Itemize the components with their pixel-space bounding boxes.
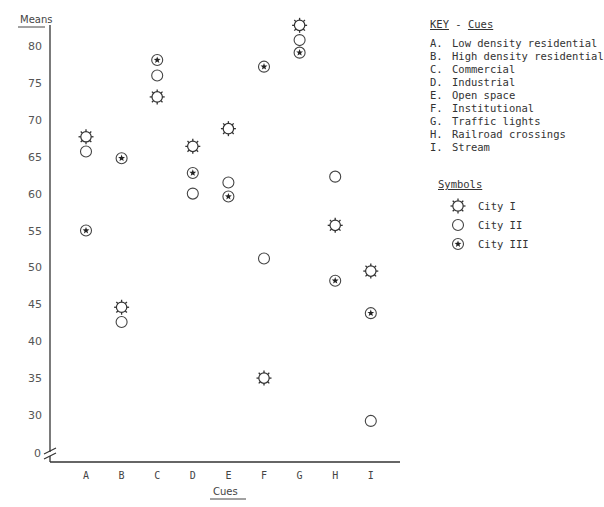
y-tick-label: 40 bbox=[28, 335, 42, 348]
y-tick-label: 45 bbox=[28, 298, 42, 311]
key-item-letter: E. bbox=[430, 89, 452, 102]
star-circle-icon bbox=[450, 236, 466, 252]
data-point-star-circle bbox=[330, 275, 341, 286]
y-tick-label: 70 bbox=[28, 114, 42, 127]
series-city-iii bbox=[81, 47, 377, 319]
symbols-list: City ICity IICity III bbox=[438, 196, 529, 253]
y-tick-label: 65 bbox=[28, 151, 42, 164]
key-item: F.Institutional bbox=[430, 102, 604, 115]
key-item-label: Industrial bbox=[452, 76, 515, 89]
y-tick-label: 35 bbox=[28, 372, 42, 385]
key-item-label: Commercial bbox=[452, 63, 515, 76]
key-item-letter: F. bbox=[430, 102, 452, 115]
data-point-star-circle bbox=[223, 191, 234, 202]
key-item-label: High density residential bbox=[452, 50, 604, 63]
data-point-circle bbox=[116, 317, 127, 328]
data-point-star-circle bbox=[81, 225, 92, 236]
circle-icon bbox=[450, 217, 466, 233]
data-point-sun bbox=[185, 139, 200, 154]
x-tick-label: F bbox=[261, 470, 267, 481]
key-item-label: Open space bbox=[452, 89, 515, 102]
x-tick-label: G bbox=[297, 470, 303, 481]
key-list: A.Low density residentialB.High density … bbox=[430, 37, 604, 154]
x-tick-label: C bbox=[154, 470, 160, 481]
key-item: A.Low density residential bbox=[430, 37, 604, 50]
key-title: KEY - Cues bbox=[430, 18, 604, 31]
x-tick-label: I bbox=[368, 470, 374, 481]
y-axis-label: Means bbox=[20, 14, 52, 25]
cue-key: KEY - Cues A.Low density residentialB.Hi… bbox=[430, 18, 604, 154]
y-tick-label: 30 bbox=[28, 409, 42, 422]
y-tick-label: 80 bbox=[28, 40, 42, 53]
symbol-label: City III bbox=[478, 238, 529, 250]
symbols-title: Symbols bbox=[438, 178, 529, 190]
data-point-star-circle bbox=[116, 153, 127, 164]
key-item-letter: A. bbox=[430, 37, 452, 50]
x-tick-label: D bbox=[190, 470, 196, 481]
key-item-label: Low density residential bbox=[452, 37, 597, 50]
x-tick-label: A bbox=[83, 470, 89, 481]
y-tick-label: 60 bbox=[28, 188, 42, 201]
sun-icon bbox=[450, 198, 466, 214]
y-tick-label: 50 bbox=[28, 261, 42, 274]
key-item-letter: D. bbox=[430, 76, 452, 89]
key-item-letter: G. bbox=[430, 115, 452, 128]
data-point-star-circle bbox=[187, 167, 198, 178]
key-item-letter: B. bbox=[430, 50, 452, 63]
symbol-item: City I bbox=[438, 196, 529, 215]
data-point-sun bbox=[328, 218, 343, 233]
data-point-sun bbox=[114, 300, 129, 315]
x-tick-label: H bbox=[332, 470, 338, 481]
data-point-circle bbox=[259, 253, 270, 264]
data-point-sun bbox=[79, 129, 94, 144]
y-tick-label: 75 bbox=[28, 77, 42, 90]
symbol-item: City II bbox=[438, 215, 529, 234]
key-item: D.Industrial bbox=[430, 76, 604, 89]
key-item: E.Open space bbox=[430, 89, 604, 102]
x-tick-label: B bbox=[119, 470, 125, 481]
x-axis-label: Cues bbox=[213, 486, 238, 497]
x-ticks: ABCDEFGHI bbox=[83, 470, 374, 481]
symbol-label: City I bbox=[478, 200, 516, 212]
data-point-star-circle bbox=[365, 308, 376, 319]
data-point-circle bbox=[81, 146, 92, 157]
key-item: G.Traffic lights bbox=[430, 115, 604, 128]
key-item: I.Stream bbox=[430, 141, 604, 154]
symbol-item: City III bbox=[438, 234, 529, 253]
data-point-sun bbox=[363, 264, 378, 279]
x-tick-label: E bbox=[225, 470, 231, 481]
data-point-circle bbox=[365, 415, 376, 426]
key-item-letter: C. bbox=[430, 63, 452, 76]
key-item: C.Commercial bbox=[430, 63, 604, 76]
y-tick-label: 55 bbox=[28, 225, 42, 238]
data-point-star-circle bbox=[259, 61, 270, 72]
key-item-letter: I. bbox=[430, 141, 452, 154]
data-point-sun bbox=[257, 371, 272, 386]
data-point-sun bbox=[150, 89, 165, 104]
key-item-label: Traffic lights bbox=[452, 115, 541, 128]
data-point-star-circle bbox=[294, 47, 305, 58]
key-item-label: Railroad crossings bbox=[452, 128, 566, 141]
symbols-legend: Symbols City ICity IICity III bbox=[438, 178, 529, 253]
axes bbox=[44, 25, 400, 462]
data-point-star-circle bbox=[152, 55, 163, 66]
y-ticks: 80757065605550454035300 bbox=[28, 40, 42, 460]
key-item-label: Stream bbox=[452, 141, 490, 154]
data-point-circle bbox=[152, 70, 163, 81]
data-point-sun bbox=[292, 18, 307, 33]
series-city-ii bbox=[81, 35, 377, 427]
data-point-circle bbox=[187, 188, 198, 199]
data-point-circle bbox=[294, 35, 305, 46]
data-point-circle bbox=[223, 177, 234, 188]
key-item: B.High density residential bbox=[430, 50, 604, 63]
symbol-label: City II bbox=[478, 219, 522, 231]
data-points bbox=[79, 18, 379, 427]
key-item-label: Institutional bbox=[452, 102, 534, 115]
data-point-sun bbox=[221, 121, 236, 136]
key-item-letter: H. bbox=[430, 128, 452, 141]
data-point-circle bbox=[330, 171, 341, 182]
y-tick-label-zero: 0 bbox=[34, 447, 41, 460]
key-item: H.Railroad crossings bbox=[430, 128, 604, 141]
